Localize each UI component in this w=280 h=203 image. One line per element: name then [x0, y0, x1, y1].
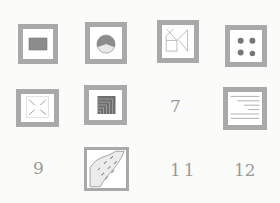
- tile-10-river-dashes: [84, 147, 129, 191]
- cell-12-number: 12: [234, 160, 256, 180]
- cell-9-number: 9: [33, 158, 44, 178]
- tile-4-four-dots: [225, 25, 267, 67]
- nested-corners-icon: [89, 90, 122, 120]
- pie-circle-icon: [90, 27, 122, 59]
- tile-5-corner-arrows: [16, 89, 59, 127]
- tile-1-filled-rectangle: [18, 24, 58, 64]
- river-dashes-icon: [87, 150, 126, 188]
- tile-3-line-network: [157, 20, 199, 63]
- line-network-icon: [162, 25, 194, 58]
- filled-rectangle-icon: [23, 29, 53, 59]
- tile-8-horizontal-lines: [223, 87, 267, 130]
- tile-2-pie-circle: [85, 22, 127, 64]
- cell-11-number: 11: [170, 160, 198, 180]
- four-dots-icon: [230, 30, 262, 62]
- tile-6-nested-corners: [84, 85, 127, 125]
- horizontal-lines-icon: [228, 92, 262, 125]
- cell-7-number: 7: [170, 96, 181, 116]
- corner-arrows-icon: [21, 94, 54, 122]
